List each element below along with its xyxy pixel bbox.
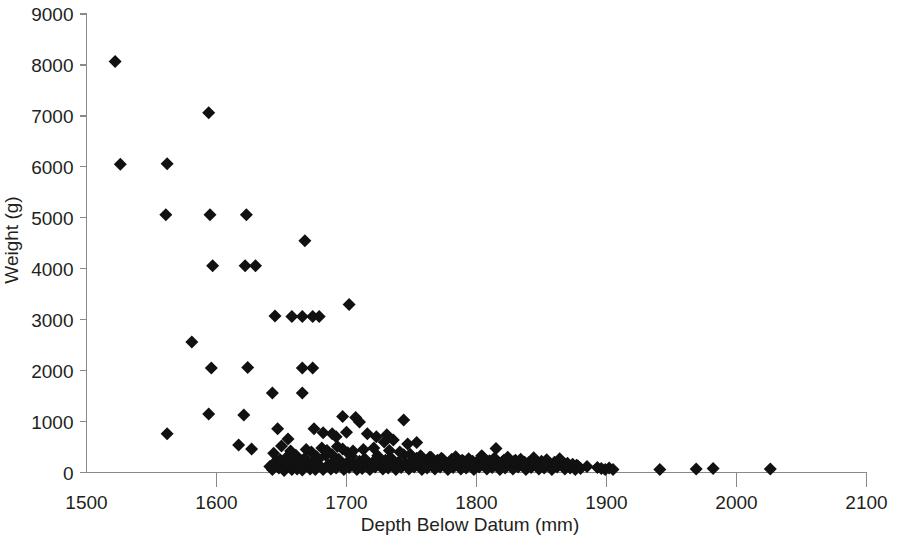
data-point	[237, 408, 250, 421]
x-tick-label: 2100	[845, 492, 887, 513]
data-point	[114, 158, 127, 171]
plot-canvas: 0100020003000400050006000700080009000 15…	[0, 0, 897, 539]
x-tick-label: 1900	[585, 492, 627, 513]
x-tick-label: 1700	[325, 492, 367, 513]
y-tick-label: 8000	[31, 55, 73, 76]
data-point	[204, 208, 217, 221]
x-tick-label: 1800	[455, 492, 497, 513]
scatter-plot-figure: 0100020003000400050006000700080009000 15…	[0, 0, 897, 539]
data-point	[245, 443, 258, 456]
y-tick-label: 5000	[31, 208, 73, 229]
data-point	[271, 422, 284, 435]
data-point	[161, 427, 174, 440]
data-point	[249, 259, 262, 272]
y-tick-label: 6000	[31, 157, 73, 178]
y-axis-ticks	[80, 14, 87, 473]
data-point-markers	[109, 55, 777, 477]
x-axis-title: Depth Below Datum (mm)	[361, 514, 580, 535]
y-tick-label: 3000	[31, 310, 73, 331]
data-point	[202, 106, 215, 119]
data-point	[296, 387, 309, 400]
data-point	[232, 438, 245, 451]
y-tick-label: 0	[63, 463, 74, 484]
data-point	[185, 336, 198, 349]
data-point	[357, 443, 370, 456]
x-tick-label: 1500	[65, 492, 107, 513]
data-point	[336, 410, 349, 423]
data-point	[397, 414, 410, 427]
y-axis-tick-labels: 0100020003000400050006000700080009000	[31, 4, 73, 484]
data-point	[206, 259, 219, 272]
data-point	[241, 361, 254, 374]
data-point	[159, 208, 172, 221]
data-point	[161, 157, 174, 170]
data-point	[653, 463, 666, 476]
data-point	[202, 407, 215, 420]
y-tick-label: 4000	[31, 259, 73, 280]
data-point	[764, 462, 777, 475]
data-point	[266, 387, 279, 400]
data-point	[298, 234, 311, 247]
data-point	[109, 55, 122, 68]
y-tick-label: 9000	[31, 4, 73, 25]
data-point	[240, 208, 253, 221]
data-point	[205, 362, 218, 375]
data-point	[306, 362, 319, 375]
x-tick-label: 1600	[195, 492, 237, 513]
data-point	[410, 436, 423, 449]
y-tick-label: 7000	[31, 106, 73, 127]
data-point	[690, 462, 703, 475]
data-point	[343, 298, 356, 311]
y-axis-title: Weight (g)	[1, 196, 22, 283]
x-tick-label: 2000	[715, 492, 757, 513]
data-point	[269, 310, 282, 323]
y-tick-label: 2000	[31, 361, 73, 382]
x-axis-tick-labels: 1500160017001800190020002100	[65, 492, 887, 513]
y-tick-label: 1000	[31, 412, 73, 433]
